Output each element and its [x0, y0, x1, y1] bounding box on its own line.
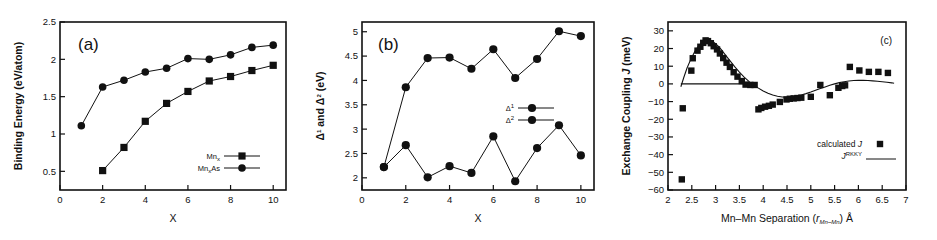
- x-tick-label: 2: [100, 194, 105, 205]
- panel-b-data-point: [511, 177, 519, 185]
- panel-b-series-line-0: [384, 31, 581, 167]
- panel-c-data-point: [808, 94, 814, 100]
- y-tick-label: 20: [653, 43, 664, 54]
- panel-c-data-point: [777, 99, 783, 105]
- panel-a-data-point: [269, 41, 277, 49]
- panel-a-tag: (a): [78, 35, 99, 54]
- x-tick-label: 10: [268, 194, 279, 205]
- panel-a-data-point: [78, 122, 86, 130]
- panel-a-data-point: [248, 67, 255, 74]
- panel-c-legend-marker-0: [877, 141, 883, 147]
- panel-b-data-point: [467, 65, 475, 73]
- panel-b-data-point: [424, 173, 432, 181]
- y-tick-label: 10: [653, 61, 664, 72]
- y-tick-label: 2: [51, 54, 56, 65]
- panel-a-x-axis-title: X: [169, 212, 176, 224]
- panel-c-data-point: [680, 105, 686, 111]
- panel-c-legend-label-0: calculated J: [817, 139, 863, 149]
- y-tick-label: −50: [648, 167, 664, 178]
- panel-a-data-point: [184, 88, 191, 95]
- panel-b-data-point: [577, 151, 585, 159]
- figure-container: 02468100.511.522.5Binding Energy (eV/ato…: [0, 0, 937, 240]
- x-tick-label: 6: [491, 194, 496, 205]
- panel-c-data-point: [847, 64, 853, 70]
- panel-b-data-point: [489, 45, 497, 53]
- panel-c-data-point: [690, 55, 696, 61]
- panel-b-data-point: [424, 54, 432, 62]
- y-tick-label: 5: [353, 26, 358, 37]
- panel-c-tag: (c): [880, 35, 892, 46]
- y-tick-label: 1.5: [43, 91, 56, 102]
- x-tick-label: 6.5: [876, 194, 889, 205]
- x-tick-label: 0: [359, 194, 364, 205]
- x-tick-label: 0: [57, 194, 62, 205]
- panel-c-exchange-coupling: 22.533.544.555.566.57−60−50−40−30−20−100…: [610, 0, 937, 240]
- x-tick-label: 4: [447, 194, 452, 205]
- panel-c-y-axis-title: Exchange Coupling J (meV): [620, 37, 632, 176]
- panel-c-data-point: [770, 101, 776, 107]
- x-tick-label: 7: [903, 194, 908, 205]
- panel-b-data-point: [467, 169, 475, 177]
- panel-b-legend-marker-0: [528, 104, 536, 112]
- panel-b-data-point: [555, 121, 563, 129]
- panel-c-x-axis-title: Mn–Mn Separation (rMn–Mn) Å: [721, 212, 853, 225]
- panel-b-legend-marker-1: [528, 116, 536, 124]
- panel-a-series-line-0: [103, 65, 274, 170]
- panel-a-binding-energy: 02468100.511.522.5Binding Energy (eV/ato…: [0, 0, 312, 240]
- x-tick-label: 8: [228, 194, 233, 205]
- x-tick-label: 3.5: [733, 194, 746, 205]
- panel-a-legend-label-0: Mnx: [207, 152, 220, 162]
- panel-b-data-point: [402, 83, 410, 91]
- y-tick-label: 3.5: [345, 99, 358, 110]
- y-tick-label: 0.5: [43, 166, 56, 177]
- panel-b-legend-label-0: Δ1: [506, 103, 515, 113]
- panel-b-legend-label-1: Δ2: [506, 115, 515, 125]
- x-tick-label: 5: [808, 194, 813, 205]
- x-tick-label: 6: [185, 194, 190, 205]
- panel-a-y-axis-title: Binding Energy (eV/atom): [12, 42, 24, 170]
- x-tick-label: 8: [534, 194, 539, 205]
- panel-b-svg: 024681022.533.544.55Δ1 and Δ2 (eV)X(b)Δ1…: [300, 0, 620, 240]
- panel-b-data-point: [577, 32, 585, 40]
- y-tick-label: 3: [353, 124, 358, 135]
- panel-a-data-point: [227, 73, 234, 80]
- panel-a-data-point: [205, 56, 213, 64]
- y-tick-label: 30: [653, 25, 664, 36]
- panel-c-data-point: [866, 69, 872, 75]
- panel-b-data-point: [489, 132, 497, 140]
- y-tick-label: −20: [648, 114, 664, 125]
- panel-b-data-point: [533, 55, 541, 63]
- y-tick-label: −40: [648, 149, 664, 160]
- panel-a-data-point: [141, 68, 149, 76]
- panel-a-data-point: [184, 55, 192, 63]
- panel-c-data-point: [798, 94, 804, 100]
- y-tick-label: 0: [659, 78, 664, 89]
- panel-b-y-axis-title: Δ1 and Δ2 (eV): [314, 71, 326, 140]
- panel-b-data-point: [402, 141, 410, 149]
- panel-a-data-point: [120, 144, 127, 151]
- panel-b-data-point: [555, 27, 563, 35]
- panel-c-legend-label-1: JRKKY: [840, 151, 862, 161]
- panel-a-data-point: [163, 64, 171, 72]
- panel-a-data-point: [120, 76, 128, 84]
- y-tick-label: 1: [51, 128, 56, 139]
- panel-c-data-point: [885, 70, 891, 76]
- y-tick-label: 2: [353, 172, 358, 183]
- panel-b-series-line-1: [384, 125, 581, 181]
- panel-c-data-point: [827, 92, 833, 98]
- y-tick-label: −10: [648, 96, 664, 107]
- panel-a-svg: 02468100.511.522.5Binding Energy (eV/ato…: [0, 0, 312, 240]
- panel-c-data-point: [688, 67, 694, 73]
- panel-a-legend-marker-0: [238, 152, 245, 159]
- x-tick-label: 2: [403, 194, 408, 205]
- panel-b-delta: 024681022.533.544.55Δ1 and Δ2 (eV)X(b)Δ1…: [300, 0, 620, 240]
- panel-a-data-point: [142, 118, 149, 125]
- panel-a-legend-label-1: MnxAs: [198, 164, 220, 174]
- panel-a-data-point: [248, 44, 256, 52]
- panel-b-x-axis-title: X: [474, 212, 481, 224]
- panel-c-data-point: [875, 69, 881, 75]
- panel-b-data-point: [380, 163, 388, 171]
- y-tick-label: −30: [648, 131, 664, 142]
- panel-a-series-line-1: [81, 45, 273, 126]
- plot-frame: [668, 22, 906, 190]
